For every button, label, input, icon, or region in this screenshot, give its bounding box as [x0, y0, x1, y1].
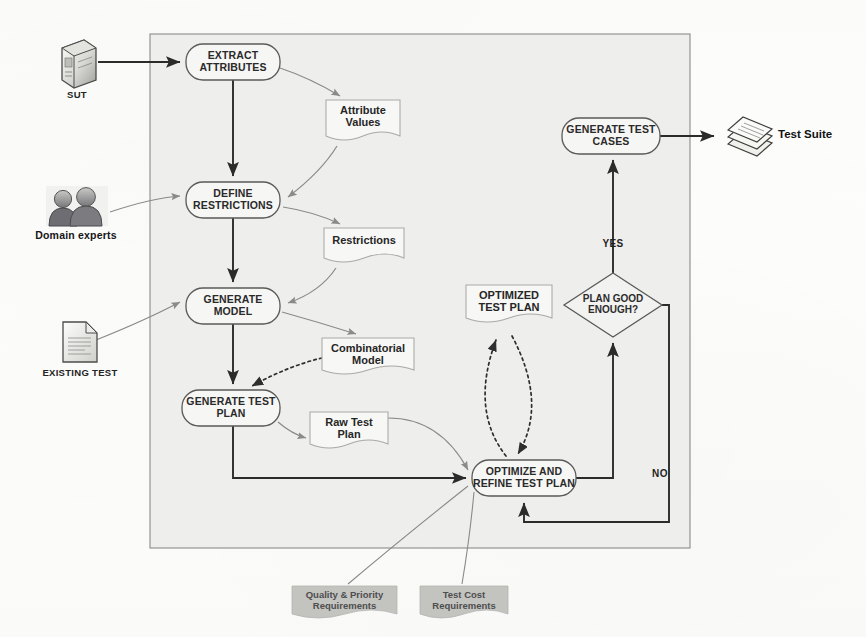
diagram-page: EXTRACT ATTRIBUTES DEFINE RESTRICTIONS G…: [0, 0, 866, 637]
requirement-quality-priority[interactable]: [292, 586, 397, 618]
process-define-restrictions[interactable]: [186, 182, 280, 218]
server-box-icon: [62, 40, 96, 88]
diagram-canvas: [0, 0, 866, 637]
requirement-shapes: [292, 586, 508, 618]
document-icon: [63, 322, 97, 362]
requirement-test-cost[interactable]: [420, 586, 508, 618]
process-extract-attributes[interactable]: [186, 44, 280, 80]
process-generate-model[interactable]: [186, 288, 280, 324]
process-generate-test-cases[interactable]: [562, 118, 660, 154]
two-users-icon: [46, 186, 108, 226]
document-stack-icon: [728, 117, 772, 156]
process-generate-test-plan[interactable]: [182, 390, 280, 426]
process-optimize-refine-test-plan[interactable]: [472, 460, 576, 496]
